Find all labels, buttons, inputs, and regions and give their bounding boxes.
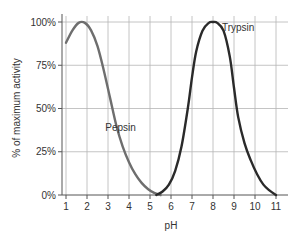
x-tick-label: 10 bbox=[249, 201, 261, 212]
y-tick-labels: 0%25%50%75%100% bbox=[30, 17, 62, 201]
x-tick-label: 2 bbox=[84, 201, 90, 212]
x-tick-label: 5 bbox=[147, 201, 153, 212]
x-tick-label: 7 bbox=[189, 201, 195, 212]
y-tick-label: 50% bbox=[36, 103, 56, 114]
y-tick-label: 100% bbox=[30, 17, 56, 28]
x-tick-label: 1 bbox=[63, 201, 69, 212]
x-tick-label: 8 bbox=[210, 201, 216, 212]
y-axis-label: % of maximum activity bbox=[11, 58, 22, 157]
x-axis-label: pH bbox=[165, 220, 178, 231]
y-tick-label: 75% bbox=[36, 60, 56, 71]
x-tick-labels: 1234567891011 bbox=[63, 195, 281, 212]
y-tick-label: 0% bbox=[42, 190, 57, 201]
y-tick-label: 25% bbox=[36, 146, 56, 157]
x-tick-label: 4 bbox=[126, 201, 132, 212]
x-tick-label: 9 bbox=[231, 201, 237, 212]
series-label: Trypsin bbox=[222, 22, 254, 33]
enzyme-activity-chart: 0%25%50%75%100% 1234567891011 PepsinTryp… bbox=[0, 0, 300, 235]
series-label: Pepsin bbox=[105, 122, 136, 133]
x-tick-label: 11 bbox=[271, 201, 282, 212]
x-tick-label: 6 bbox=[168, 201, 174, 212]
x-tick-label: 3 bbox=[105, 201, 111, 212]
